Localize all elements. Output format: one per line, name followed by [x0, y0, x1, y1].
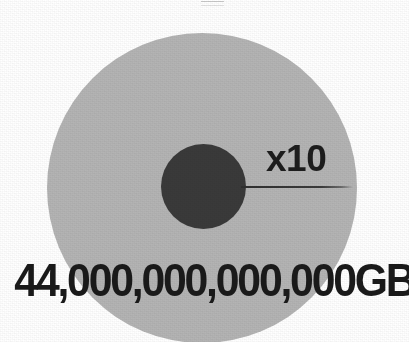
- subset-volume-bubble: [161, 144, 246, 229]
- infographic-figure: x10 44,000,000,000,000GB: [0, 0, 409, 342]
- scan-artifact-mark: [201, 1, 224, 7]
- callout-leader-line: [241, 186, 353, 188]
- total-value-caption: 44,000,000,000,000GB: [14, 257, 394, 303]
- multiplier-label: x10: [266, 140, 326, 177]
